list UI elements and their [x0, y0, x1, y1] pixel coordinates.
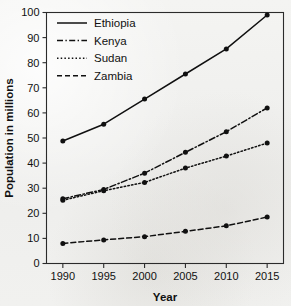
series-zambia [60, 215, 269, 246]
data-point-sudan [101, 188, 106, 193]
y-tick-label: 80 [27, 57, 39, 69]
legend-item-kenya[interactable]: Kenya [57, 35, 127, 47]
data-point-zambia [224, 223, 229, 228]
y-axis-title: Population in millions [3, 78, 15, 197]
x-axis: 199019952000200520102015 [51, 264, 280, 283]
data-point-zambia [101, 237, 106, 242]
y-tick-label: 30 [27, 182, 39, 194]
data-point-ethiopia [265, 13, 270, 18]
data-point-kenya [142, 171, 147, 176]
data-point-zambia [60, 241, 65, 246]
x-tick-label: 2010 [214, 270, 238, 282]
data-point-zambia [183, 229, 188, 234]
data-point-sudan [183, 166, 188, 171]
legend-label: Sudan [94, 52, 127, 64]
x-tick-label: 2015 [255, 270, 279, 282]
data-point-sudan [224, 154, 229, 159]
legend-label: Ethiopia [94, 17, 136, 29]
chart-canvas: 0102030405060708090100199019952000200520… [0, 0, 291, 306]
x-tick-label: 2000 [132, 270, 156, 282]
data-point-kenya [224, 129, 229, 134]
y-tick-label: 60 [27, 107, 39, 119]
line-chart: 0102030405060708090100199019952000200520… [0, 0, 291, 306]
series-group [60, 13, 269, 246]
series-ethiopia [60, 13, 269, 144]
series-kenya [60, 105, 269, 201]
legend-label: Kenya [94, 35, 127, 47]
data-point-sudan [142, 180, 147, 185]
x-tick-label: 2005 [173, 270, 197, 282]
data-point-ethiopia [60, 139, 65, 144]
x-axis-title: Year [153, 291, 178, 303]
legend-item-sudan[interactable]: Sudan [57, 52, 127, 64]
data-point-ethiopia [101, 122, 106, 127]
y-tick-label: 70 [27, 82, 39, 94]
x-tick-label: 1990 [51, 270, 75, 282]
legend-item-ethiopia[interactable]: Ethiopia [57, 17, 136, 29]
y-tick-label: 0 [33, 257, 39, 269]
legend-label: Zambia [94, 70, 133, 82]
y-axis: 0102030405060708090100 [21, 6, 46, 269]
x-tick-label: 1995 [91, 270, 115, 282]
data-point-zambia [265, 215, 270, 220]
data-point-zambia [142, 234, 147, 239]
legend-item-zambia[interactable]: Zambia [57, 70, 133, 82]
y-tick-label: 40 [27, 157, 39, 169]
data-point-sudan [265, 141, 270, 146]
series-line-zambia [63, 217, 267, 243]
data-point-ethiopia [183, 72, 188, 77]
series-line-kenya [63, 108, 267, 199]
series-sudan [60, 141, 269, 203]
y-tick-label: 10 [27, 232, 39, 244]
series-line-sudan [63, 143, 267, 200]
data-point-kenya [183, 150, 188, 155]
data-point-ethiopia [224, 46, 229, 51]
data-point-sudan [60, 198, 65, 203]
y-tick-label: 20 [27, 207, 39, 219]
data-point-kenya [265, 105, 270, 110]
y-tick-label: 90 [27, 32, 39, 44]
legend: EthiopiaKenyaSudanZambia [57, 17, 136, 82]
data-point-ethiopia [142, 97, 147, 102]
plot-frame [47, 13, 284, 264]
y-tick-label: 100 [21, 6, 39, 18]
y-tick-label: 50 [27, 132, 39, 144]
